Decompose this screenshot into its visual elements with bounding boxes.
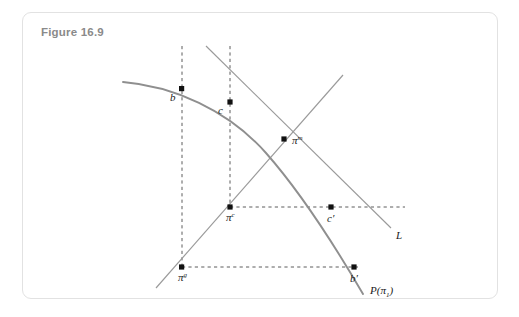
point-marker-c-prime [328,204,333,209]
label-point-b-prime: b′ [350,272,359,284]
label-curve-pareto-frontier: P(π1) [369,284,393,299]
pareto-frontier-curve [123,82,363,294]
point-markers [179,86,357,270]
point-marker-b-prime [351,264,356,269]
point-marker-b [179,86,184,91]
label-point-pi-m: πm [292,134,303,146]
label-point-pi-g: πg [178,271,188,283]
point-marker-pi-c [227,204,232,209]
point-marker-pi-g [179,264,184,269]
label-point-pi-c: πc [226,211,236,223]
guide-lines [182,46,405,267]
point-marker-c [227,99,232,104]
diagram-svg: b c πm πc c′ πg b′ L [23,13,499,300]
forty-five-degree-ray [156,75,343,288]
diagram-plot-area: b c πm πc c′ πg b′ L [23,13,499,300]
label-line-L: L [395,229,402,241]
label-point-c: c [218,104,223,116]
figure-card: Figure 16.9 [22,12,498,299]
point-marker-pi-m [281,136,286,141]
label-point-c-prime: c′ [327,212,335,224]
label-point-b: b [170,91,176,103]
